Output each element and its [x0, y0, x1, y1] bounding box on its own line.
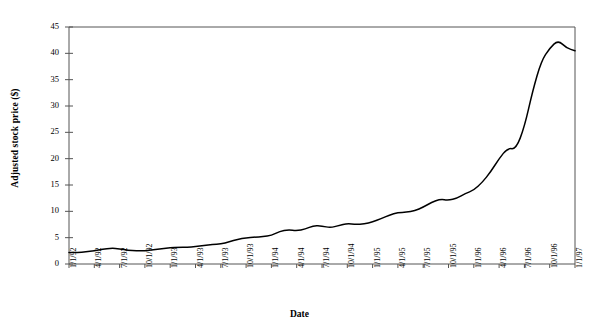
- y-tick-label: 40: [33, 47, 59, 57]
- y-tick-label: 35: [33, 74, 59, 84]
- y-tick-label: 15: [33, 179, 59, 189]
- x-axis-title: Date: [0, 309, 599, 319]
- y-tick-label: 20: [33, 153, 59, 163]
- y-tick-label: 5: [33, 232, 59, 242]
- y-tick-label: 10: [33, 205, 59, 215]
- y-tick-label: 0: [33, 258, 59, 268]
- y-tick-label: 25: [33, 126, 59, 136]
- y-tick-label: 45: [33, 21, 59, 31]
- y-tick-label: 30: [33, 100, 59, 110]
- stock-price-line-chart: Adjusted stock price ($) Date 0510152025…: [0, 0, 599, 335]
- chart-plot-svg: [0, 0, 599, 335]
- chart-background: [0, 0, 599, 335]
